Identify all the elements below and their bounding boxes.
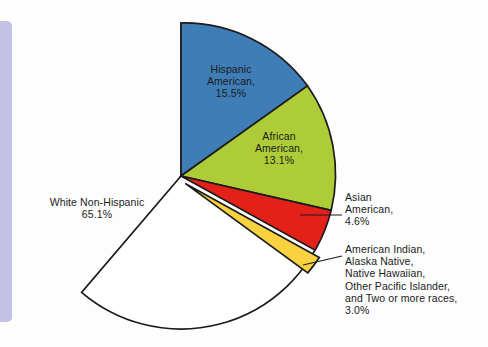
slice-label-hispanic-american: Hispanic American, 15.5% — [188, 63, 274, 100]
slice-label-other-races: American Indian, Alaska Native, Native H… — [345, 243, 487, 316]
slice-label-asian-american: Asian American, 4.6% — [345, 191, 465, 228]
pie-chart-figure: Hispanic American, 15.5% African America… — [0, 0, 488, 347]
slice-label-white-non-hispanic: White Non-Hispanic 65.1% — [32, 196, 162, 220]
slice-label-african-american: African American, 13.1% — [236, 130, 322, 167]
